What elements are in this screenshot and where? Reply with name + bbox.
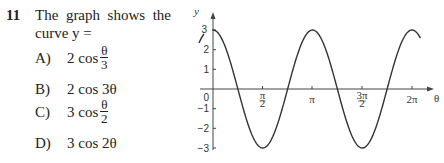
x-tick-label-pi: π (309, 93, 315, 105)
y-tick-label: −2 (198, 123, 210, 134)
curve-left-stub (199, 34, 204, 43)
svg-text:2: 2 (260, 97, 266, 109)
svg-text:2: 2 (359, 97, 365, 109)
x-axis-arrow-icon (427, 87, 434, 92)
y-tick-label: 0 (203, 92, 209, 103)
y-tick-label: −3 (198, 143, 210, 154)
x-tick-label-3pi-over-2: 3π 2 (356, 89, 368, 109)
y-tick-label: 1 (203, 64, 209, 75)
y-tick-label: 3 (201, 24, 207, 35)
x-tick-label-2pi: 2π (406, 93, 418, 105)
y-tick-label: −1 (198, 103, 210, 114)
y-axis-arrow-icon (211, 12, 216, 19)
x-axis-label: θ (434, 92, 439, 104)
y-tick-label: 2 (203, 44, 209, 55)
y-axis-label: y (193, 5, 199, 17)
cosine-graph: y θ 3 2 1 0 −1 −2 −3 π 2 π 3π 2 2π (0, 0, 444, 163)
x-tick-label-pi-over-2: π 2 (260, 89, 266, 109)
